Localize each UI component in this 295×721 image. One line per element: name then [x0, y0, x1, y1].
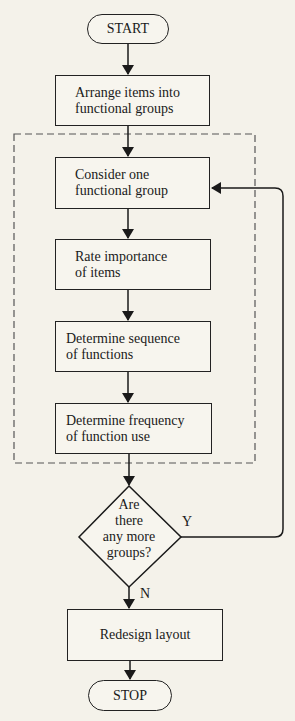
start-label: START	[107, 21, 149, 37]
decision-line4: groups?	[89, 545, 169, 561]
step-arrange: Arrange items intofunctional groups	[55, 75, 210, 126]
decision-line2: there	[89, 513, 169, 529]
step-frequency-line2: of function use	[66, 429, 185, 445]
step-arrange-line1: Arrange items into	[75, 85, 180, 101]
step-consider: Consider onefunctional group	[55, 157, 210, 209]
no-label: N	[140, 586, 150, 602]
step-frequency-line1: Determine frequency	[66, 413, 185, 429]
decision-line1: Are	[89, 497, 169, 513]
step-sequence-line1: Determine sequence	[66, 331, 180, 347]
step-arrange-line2: functional groups	[75, 101, 180, 117]
step-consider-line2: functional group	[75, 183, 168, 199]
step-sequence-line2: of functions	[66, 347, 180, 363]
stop-terminal: STOP	[88, 680, 172, 711]
step-rate-line2: of items	[75, 265, 167, 281]
step-redesign-label: Redesign layout	[100, 627, 191, 643]
step-consider-line1: Consider one	[75, 167, 168, 183]
start-terminal: START	[87, 14, 169, 44]
decision-text: Are there any more groups?	[89, 497, 169, 561]
yes-label: Y	[182, 514, 192, 530]
step-rate: Rate importanceof items	[55, 239, 211, 290]
decision-line3: any more	[89, 529, 169, 545]
stop-label: STOP	[113, 688, 147, 704]
step-sequence: Determine sequenceof functions	[55, 321, 211, 372]
step-redesign: Redesign layout	[67, 609, 223, 661]
step-rate-line1: Rate importance	[75, 249, 167, 265]
step-frequency: Determine frequencyof function use	[55, 403, 212, 454]
